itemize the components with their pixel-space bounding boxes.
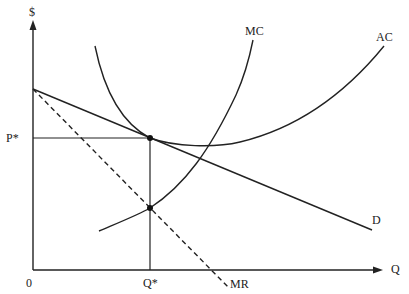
x-axis-arrow-icon: [373, 267, 383, 274]
q-star-label: Q*: [143, 277, 158, 289]
marginal-cost-curve: [99, 40, 253, 231]
mc-label: MC: [245, 25, 264, 37]
demand-curve: [33, 89, 372, 230]
y-axis-arrow-icon: [30, 20, 37, 30]
d-label: D: [372, 214, 381, 226]
ac-label: AC: [376, 31, 393, 43]
x-axis-label: Q: [391, 263, 400, 275]
marginal-revenue-curve: [33, 89, 228, 287]
average-cost-curve: [95, 46, 384, 146]
monopolistic-competition-chart: [0, 0, 409, 294]
tangency-point: [147, 135, 153, 141]
mr-label: MR: [230, 278, 249, 290]
mr-mc-intersection-point: [147, 205, 153, 211]
p-star-label: P*: [6, 132, 19, 144]
origin-label: 0: [26, 277, 32, 289]
y-axis-label: $: [29, 6, 35, 18]
